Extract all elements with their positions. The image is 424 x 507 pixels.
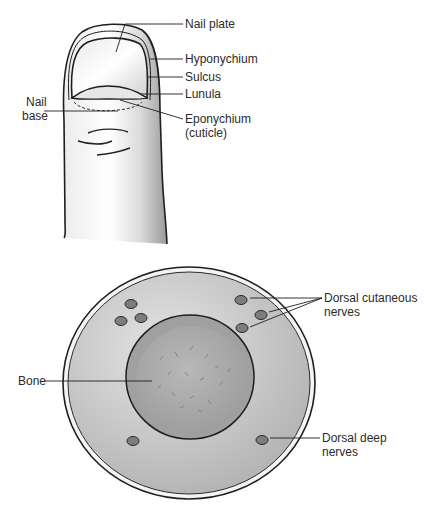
bone-marrow — [136, 326, 248, 434]
label-dorsal-cutaneous-nerves: nerves — [324, 305, 360, 319]
label-eponychium: Eponychium — [185, 112, 251, 126]
nerve-dorsal-right-1 — [235, 296, 247, 305]
nerve-dorsal-left-3 — [135, 314, 147, 323]
nerve-dorsal-right-3 — [236, 324, 248, 333]
label-cuticle: (cuticle) — [185, 126, 227, 140]
nerve-dorsal-left-2 — [115, 317, 127, 326]
cross-section-illustration — [45, 267, 322, 499]
nerve-dorsal-right-2 — [255, 311, 267, 320]
label-dorsal-cutaneous: Dorsal cutaneous — [324, 291, 417, 305]
label-base: base — [22, 109, 48, 123]
label-bone: Bone — [18, 374, 46, 388]
label-nail: Nail — [26, 95, 47, 109]
label-nail-plate: Nail plate — [185, 17, 235, 31]
nerve-deep-left — [127, 437, 139, 446]
label-dorsal-deep: Dorsal deep — [322, 431, 387, 445]
label-dorsal-deep-nerves: nerves — [322, 445, 358, 459]
nerve-deep-right — [256, 436, 268, 445]
label-lunula: Lunula — [185, 87, 221, 101]
label-sulcus: Sulcus — [185, 70, 221, 84]
finger-illustration — [44, 24, 183, 244]
nerve-dorsal-left-1 — [125, 300, 137, 309]
label-hyponychium: Hyponychium — [185, 52, 258, 66]
